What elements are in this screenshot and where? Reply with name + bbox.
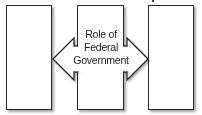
- label-line-1: Role of: [72, 28, 129, 41]
- label-line-2: Federal: [72, 41, 129, 54]
- label-line-3: Government: [72, 54, 129, 67]
- arrow-label: Role of Federal Government: [72, 28, 129, 67]
- diagram: Role of Federal Government: [0, 0, 202, 115]
